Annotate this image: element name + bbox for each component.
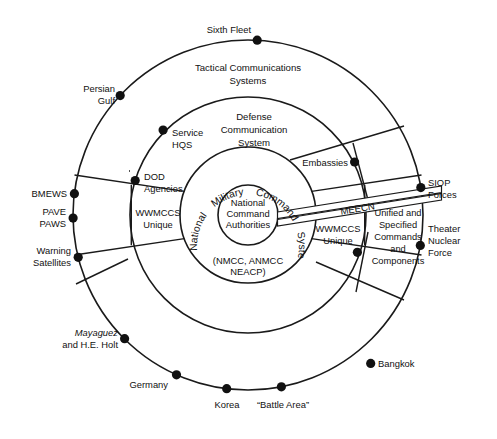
- label-bmews: BMEWS: [32, 188, 67, 199]
- label-mayaguez: Mayaguez: [75, 327, 119, 338]
- spoke-right-vertical: [353, 143, 368, 200]
- node-dot-mayaguez-holt[interactable]: [120, 334, 129, 343]
- node-dot-sixth-fleet[interactable]: [253, 36, 262, 45]
- node-dot-theater-nuclear-force[interactable]: [416, 241, 425, 250]
- label-core-subtitle-line1: (NMCC, ANMCC: [213, 255, 284, 266]
- node-dot-korea[interactable]: [222, 384, 231, 393]
- label-core-line2: Command: [226, 208, 269, 219]
- label-unified-specified-line1: Unified and: [374, 208, 421, 218]
- label-warning-satellites-line2: Satellites: [33, 257, 71, 268]
- node-dot-siop-forces[interactable]: [416, 183, 425, 192]
- spoke-lower-right: [316, 262, 404, 300]
- label-tactical-communications-systems-line1: Tactical Communications: [195, 62, 301, 73]
- label-korea: Korea: [214, 399, 240, 410]
- label-pave-paws-line2: PAWS: [39, 218, 66, 229]
- node-dot-germany[interactable]: [172, 370, 181, 379]
- node-dot-persian-gulf[interactable]: [116, 91, 125, 100]
- node-dot-service-hqs[interactable]: [159, 126, 168, 135]
- label-pave-paws-line1: PAVE: [42, 206, 66, 217]
- node-dot-battle-area[interactable]: [277, 382, 286, 391]
- label-theater-nuclear-force-line3: Force: [428, 247, 452, 258]
- node-dot-embassies[interactable]: [350, 157, 359, 166]
- label-unified-specified-line4: and: [390, 244, 406, 254]
- label-wwmccs-unique-left-line2: Unique: [143, 220, 172, 230]
- label-warning-satellites-line1: Warning: [36, 245, 71, 256]
- label-theater-nuclear-force-line1: Theater: [428, 223, 460, 234]
- label-service-hqs-line1: Service: [172, 127, 203, 138]
- label-wwmccs-unique-right-line1: WWMCCS: [316, 224, 361, 234]
- diagram-root: Tactical Communications Systems Defense …: [0, 0, 497, 439]
- spoke-right-upper: [312, 175, 422, 191]
- label-core-line3: Authorities: [226, 219, 271, 230]
- spoke-lower-left: [76, 259, 128, 284]
- label-unified-specified-line5: Components: [372, 256, 425, 266]
- label-defense-communication-system-line3: System: [238, 137, 270, 148]
- label-theater-nuclear-force-line2: Nuclear: [428, 235, 460, 246]
- node-dot-wwmccs-right[interactable]: [353, 248, 362, 257]
- label-core-subtitle-line2: NEACP): [230, 266, 265, 277]
- label-wwmccs-unique-left-line1: WWMCCS: [136, 208, 181, 218]
- label-service-hqs-line2: HQS: [172, 139, 192, 150]
- arc-word-national: National: [188, 210, 209, 251]
- concentric-ring-diagram: Tactical Communications Systems Defense …: [0, 0, 497, 439]
- label-dod-agencies-line2: Agencies: [144, 183, 183, 194]
- node-dot-bmews[interactable]: [70, 189, 79, 198]
- label-germany: Germany: [129, 379, 168, 390]
- node-dot-dod-agencies[interactable]: [131, 176, 140, 185]
- label-and-he-holt: and H.E. Holt: [62, 339, 118, 350]
- node-dot-bangkok[interactable]: [366, 359, 375, 368]
- label-bangkok: Bangkok: [378, 358, 415, 369]
- label-core-line1: National: [231, 197, 265, 208]
- label-sixth-fleet: Sixth Fleet: [207, 24, 252, 35]
- spoke-left-lower: [75, 239, 185, 255]
- label-siop-forces-line2: Forces: [428, 189, 457, 200]
- label-embassies: Embassies: [302, 157, 348, 168]
- label-defense-communication-system-line2: Communication: [221, 124, 288, 135]
- spoke-upper-right: [290, 126, 404, 160]
- label-wwmccs-unique-right-line2: Unique: [323, 236, 352, 246]
- label-tactical-communications-systems-line2: Systems: [230, 75, 267, 86]
- label-unified-specified-line2: Specified: [379, 220, 417, 230]
- label-persian-gulf-line2: Gulf: [98, 95, 116, 106]
- label-siop-forces-line1: SIOP: [428, 177, 450, 188]
- label-battle-area: “Battle Area”: [257, 399, 309, 410]
- label-dod-agencies-line1: DOD: [144, 171, 165, 182]
- label-defense-communication-system-line1: Defense: [236, 111, 272, 122]
- label-unified-specified-line3: Commands: [374, 232, 422, 242]
- label-persian-gulf-line1: Persian: [83, 83, 115, 94]
- node-dot-warning-satellites[interactable]: [74, 253, 83, 262]
- node-dot-pave-paws[interactable]: [69, 214, 78, 223]
